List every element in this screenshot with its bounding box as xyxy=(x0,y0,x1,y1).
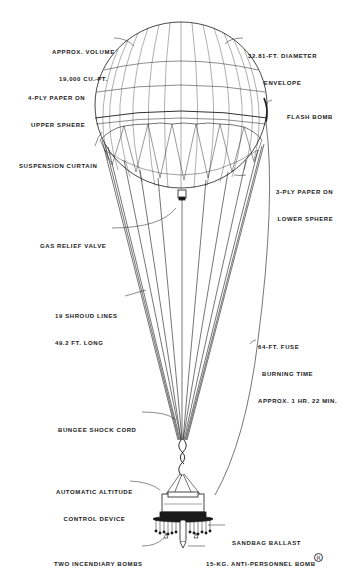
label-altitude-control: AUTOMATIC ALTITUDE CONTROL DEVICE xyxy=(56,470,133,533)
label-envelope-diameter: 32.81-FT. DIAMETER ENVELOPE xyxy=(248,34,317,97)
label-flash-bomb: FLASH BOMB xyxy=(287,95,333,131)
gas-relief-valve xyxy=(178,190,186,200)
label-suspension-curtain: SUSPENSION CURTAIN xyxy=(19,144,97,180)
label-fuse: 64-FT. FUSE BURNING TIME APPROX. 1 HR. 2… xyxy=(258,325,337,415)
shroud-lines xyxy=(102,140,264,440)
label-incendiary-bombs: TWO INCENDIARY BOMBS xyxy=(54,542,143,577)
label-bungee-shock-cord: BUNGEE SHOCK CORD xyxy=(58,408,137,444)
label-anti-personnel-bomb: 15-KG. ANTI-PERSONNEL BOMB xyxy=(206,542,316,577)
bungee-shock-cord xyxy=(179,440,187,476)
label-upper-sphere: 4-PLY PAPER ON UPPER SPHERE xyxy=(28,76,85,139)
balloon-envelope xyxy=(95,22,267,188)
anti-personnel-bomb xyxy=(180,520,186,548)
label-lower-sphere: 3-PLY PAPER ON LOWER SPHERE xyxy=(276,170,333,233)
gondola-ropes xyxy=(166,474,200,494)
altitude-control-device xyxy=(153,492,213,522)
label-gas-relief-valve: GAS RELIEF VALVE xyxy=(40,224,106,260)
corner-mark: R xyxy=(314,553,323,562)
label-shroud-lines: 19 SHROUD LINES 49.2 FT. LONG xyxy=(55,294,118,357)
